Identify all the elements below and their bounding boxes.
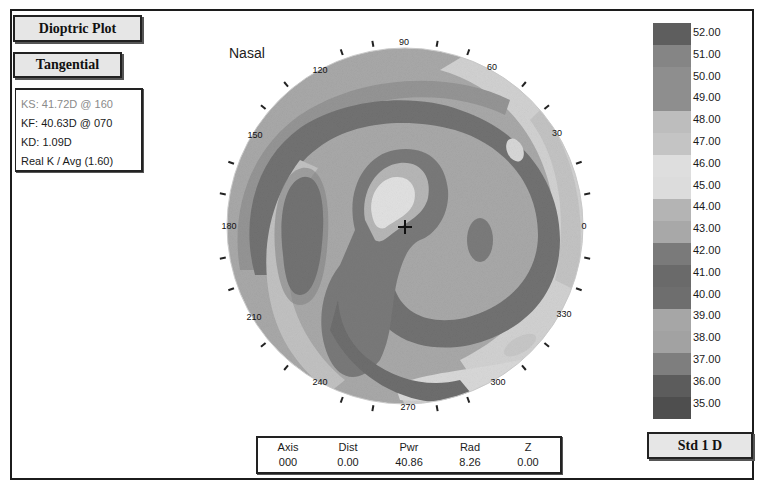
legend-swatch <box>653 287 691 309</box>
legend-label: 40.00 <box>693 287 721 309</box>
legend-swatch <box>653 23 691 45</box>
legend-label: 45.00 <box>693 178 721 200</box>
color-scale-bar <box>653 23 691 419</box>
scale-step-button[interactable]: Std 1 D <box>647 432 753 459</box>
svg-text:120: 120 <box>312 65 327 75</box>
legend-swatch <box>653 265 691 287</box>
legend-label: 38.00 <box>693 330 721 352</box>
dist-readout: Dist 0.00 <box>318 440 378 470</box>
legend-label: 49.00 <box>693 90 721 112</box>
svg-text:330: 330 <box>556 309 571 319</box>
legend-label: 41.00 <box>693 265 721 287</box>
svg-text:240: 240 <box>312 377 327 387</box>
legend-label: 36.00 <box>693 374 721 396</box>
topography-map[interactable]: 90 60 30 0 330 300 270 240 210 180 150 1… <box>0 0 764 490</box>
svg-text:180: 180 <box>221 221 236 231</box>
svg-text:0: 0 <box>581 221 586 231</box>
svg-text:270: 270 <box>400 402 415 412</box>
legend-swatch <box>653 353 691 375</box>
legend-label: 46.00 <box>693 156 721 178</box>
rad-readout: Rad 8.26 <box>440 440 500 470</box>
legend-swatch <box>653 89 691 111</box>
legend-swatch <box>653 331 691 353</box>
legend-swatch <box>653 133 691 155</box>
svg-text:150: 150 <box>247 130 262 140</box>
legend-swatch <box>653 375 691 397</box>
legend-label: 43.00 <box>693 221 721 243</box>
svg-text:210: 210 <box>246 312 261 322</box>
legend-label: 52.00 <box>693 25 721 47</box>
legend-label: 42.00 <box>693 243 721 265</box>
svg-text:30: 30 <box>552 128 562 138</box>
legend-label: 48.00 <box>693 112 721 134</box>
legend-swatch <box>653 111 691 133</box>
axis-readout: Axis 000 <box>258 440 318 470</box>
legend-label: 51.00 <box>693 47 721 69</box>
legend-label: 37.00 <box>693 352 721 374</box>
legend-label: 44.00 <box>693 199 721 221</box>
z-readout: Z 0.00 <box>498 440 558 470</box>
legend-label: 39.00 <box>693 308 721 330</box>
legend-swatch <box>653 67 691 89</box>
legend-label: 50.00 <box>693 69 721 91</box>
pwr-readout: Pwr 40.86 <box>379 440 439 470</box>
cursor-readout-panel: Axis 000 Dist 0.00 Pwr 40.86 Rad 8.26 Z … <box>256 436 562 474</box>
legend-label: 47.00 <box>693 134 721 156</box>
legend-swatch <box>653 199 691 221</box>
legend-swatch <box>653 243 691 265</box>
legend-swatch <box>653 155 691 177</box>
legend-swatch <box>653 221 691 243</box>
svg-text:90: 90 <box>399 37 409 47</box>
color-scale-labels: 52.0051.0050.0049.0048.0047.0046.0045.00… <box>693 25 721 417</box>
legend-label: 35.00 <box>693 396 721 418</box>
legend-swatch <box>653 177 691 199</box>
legend-swatch <box>653 397 691 419</box>
svg-text:60: 60 <box>487 62 497 72</box>
legend-swatch <box>653 309 691 331</box>
legend-swatch <box>653 45 691 67</box>
svg-text:300: 300 <box>490 377 505 387</box>
